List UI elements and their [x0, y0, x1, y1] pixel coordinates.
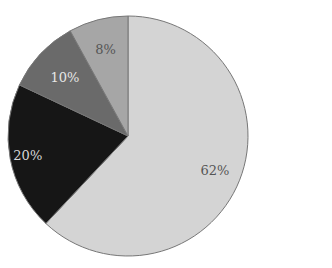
pie-chart: 62%20%10%8%: [0, 0, 332, 268]
slice-label: 8%: [95, 42, 116, 57]
pie-slices: [8, 16, 248, 256]
slice-label: 10%: [51, 70, 80, 85]
slice-label: 62%: [201, 163, 230, 178]
slice-label: 20%: [13, 148, 42, 163]
